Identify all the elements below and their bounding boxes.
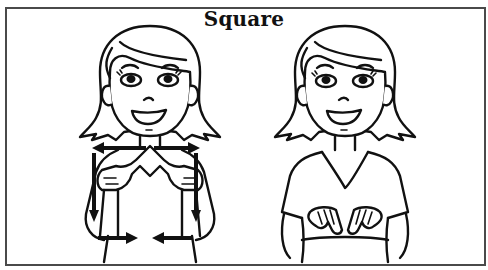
sign-illustration [0,0,488,270]
figure-left [80,26,220,262]
figure-right [275,26,415,262]
